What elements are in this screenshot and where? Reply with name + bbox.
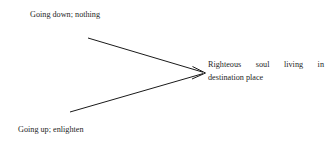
lower-branch-line [70, 74, 203, 112]
upper-branch-line [88, 38, 203, 72]
diagram-canvas: Going down; nothing Going up; enlighten … [0, 0, 328, 143]
arrow-group [0, 0, 328, 143]
arrowhead-icon [192, 67, 206, 80]
